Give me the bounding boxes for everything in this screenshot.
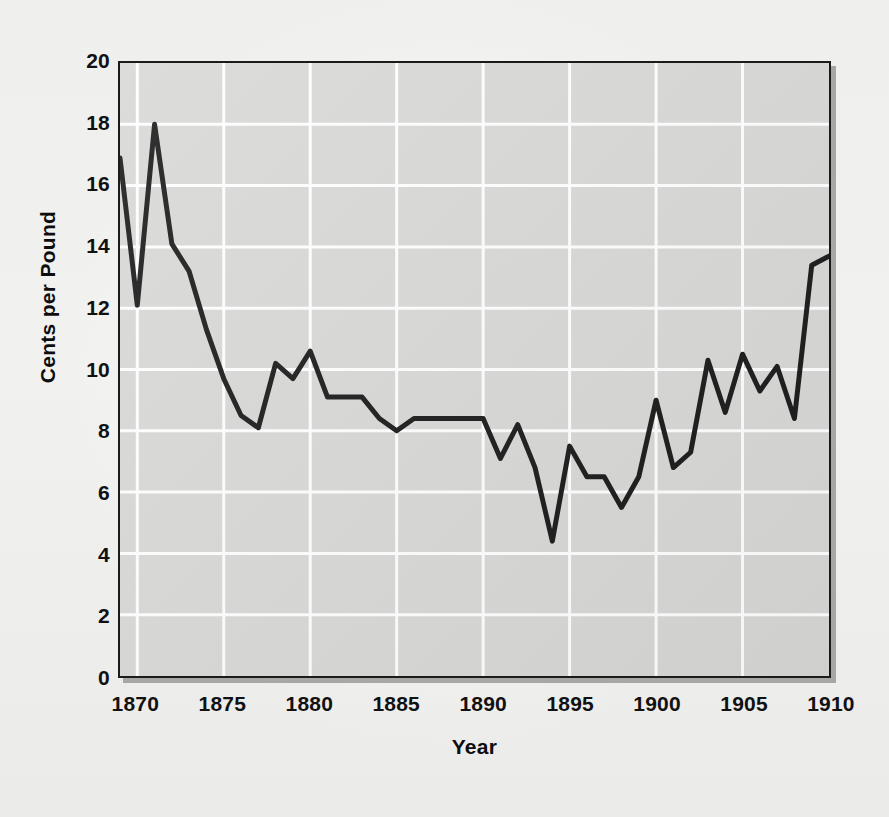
data-line-series — [120, 63, 829, 676]
y-tick-label-10: 10 — [52, 358, 110, 382]
y-tick-label-20: 20 — [52, 49, 110, 73]
y-tick-label-0: 0 — [52, 666, 110, 690]
y-tick-label-18: 18 — [52, 111, 110, 135]
plot-area — [118, 61, 831, 678]
x-tick-label-1875: 1875 — [199, 692, 247, 716]
x-tick-label-1895: 1895 — [546, 692, 594, 716]
chart-figure: 02468101214161820 1870187518801885189018… — [0, 0, 889, 817]
y-tick-label-2: 2 — [52, 604, 110, 628]
x-axis-title: Year — [118, 735, 831, 759]
x-tick-label-1885: 1885 — [372, 692, 420, 716]
x-tick-label-1900: 1900 — [633, 692, 681, 716]
x-tick-label-1910: 1910 — [807, 692, 855, 716]
y-tick-label-4: 4 — [52, 543, 110, 567]
x-axis-tick-labels: 187018751880188518901895190019051910 — [118, 692, 831, 722]
y-axis-title: Cents per Pound — [36, 187, 60, 407]
y-tick-label-8: 8 — [52, 419, 110, 443]
y-tick-label-6: 6 — [52, 481, 110, 505]
x-tick-label-1905: 1905 — [720, 692, 768, 716]
y-tick-label-14: 14 — [52, 234, 110, 258]
series-polyline — [120, 124, 829, 541]
x-tick-label-1870: 1870 — [112, 692, 160, 716]
y-tick-label-16: 16 — [52, 172, 110, 196]
x-tick-label-1890: 1890 — [459, 692, 507, 716]
x-tick-label-1880: 1880 — [286, 692, 334, 716]
y-tick-label-12: 12 — [52, 296, 110, 320]
